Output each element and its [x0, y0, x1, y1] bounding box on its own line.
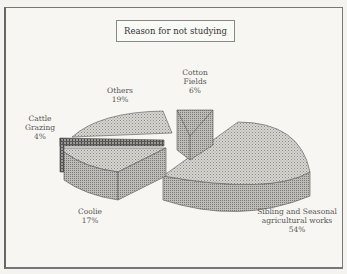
label-name-line1: Cattle [20, 114, 60, 123]
label-name-line2: agricultural works [252, 216, 342, 225]
label-cattle-grazing: Cattle Grazing 4% [20, 114, 60, 141]
label-name-line1: Sibling and Seasonal [252, 207, 342, 216]
label-others: Others 19% [95, 86, 145, 104]
label-name-line2: Fields [175, 77, 215, 86]
label-coolie: Coolie 17% [65, 207, 115, 225]
label-percent: 19% [95, 95, 145, 104]
label-name-line1: Coolie [65, 207, 115, 216]
label-name-line2: Grazing [20, 123, 60, 132]
slice-coolie [64, 148, 166, 200]
label-name-line1: Cotton [175, 68, 215, 77]
label-sibling-seasonal: Sibling and Seasonal agricultural works … [252, 207, 342, 234]
label-percent: 4% [20, 132, 60, 141]
label-percent: 6% [175, 86, 215, 95]
label-name-line1: Others [95, 86, 145, 95]
slice-others [72, 111, 172, 137]
label-cotton-fields: Cotton Fields 6% [175, 68, 215, 95]
label-percent: 54% [252, 225, 342, 234]
label-percent: 17% [65, 216, 115, 225]
